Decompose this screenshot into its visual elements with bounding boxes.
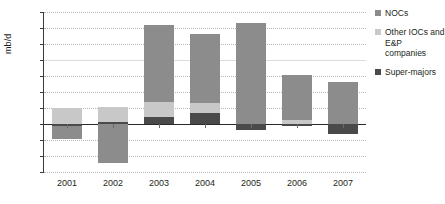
bar-segment-other-iocs[interactable]	[190, 103, 220, 113]
y-axis-tick	[40, 140, 44, 141]
legend-label: NOCs	[385, 8, 408, 18]
y-axis-title: mb/d	[2, 0, 12, 8]
x-axis-tick	[159, 124, 160, 128]
x-axis-tick	[297, 124, 298, 128]
x-axis-tick-label: 2007	[320, 178, 366, 188]
bar-segment-nocs[interactable]	[190, 34, 220, 103]
bar-segment-nocs[interactable]	[282, 75, 312, 120]
bar-segment-other-iocs[interactable]	[98, 107, 128, 121]
x-axis-tick-label: 2003	[136, 178, 182, 188]
x-axis-tick	[343, 124, 344, 128]
legend-swatch-icon	[375, 29, 381, 35]
chart-legend: NOCsOther IOCs and E&P companiesSuper-ma…	[375, 8, 445, 87]
x-axis-tick-label: 2002	[90, 178, 136, 188]
legend-swatch-icon	[375, 10, 381, 16]
x-axis-tick-label: 2004	[182, 178, 228, 188]
x-axis-tick	[67, 124, 68, 128]
bar-segment-other-iocs[interactable]	[144, 102, 174, 117]
bar-segment-super-majors[interactable]	[144, 117, 174, 124]
legend-item[interactable]: Super-majors	[375, 67, 445, 77]
bar-group[interactable]	[282, 12, 312, 172]
bar-segment-super-majors[interactable]	[190, 113, 220, 124]
y-axis-tick	[40, 76, 44, 77]
bar-group[interactable]	[52, 12, 82, 172]
legend-label: Other IOCs and E&P companies	[385, 27, 445, 58]
y-axis-tick	[40, 60, 44, 61]
legend-item[interactable]: NOCs	[375, 8, 445, 18]
y-axis-tick	[40, 12, 44, 13]
x-axis-tick-label: 2001	[44, 178, 90, 188]
bar-segment-nocs[interactable]	[236, 23, 266, 124]
y-axis-title-label: mb/d	[3, 34, 13, 54]
bar-group[interactable]	[236, 12, 266, 172]
y-axis-tick	[40, 92, 44, 93]
bar-segment-nocs[interactable]	[144, 25, 174, 101]
bar-segment-nocs[interactable]	[98, 124, 128, 163]
y-axis-tick	[40, 172, 44, 173]
x-axis-tick-label: 2005	[228, 178, 274, 188]
y-axis-tick	[40, 44, 44, 45]
bar-segment-other-iocs[interactable]	[52, 108, 82, 124]
stacked-bar-chart: mb/d NOCsOther IOCs and E&P companiesSup…	[0, 0, 445, 204]
y-axis-tick	[40, 108, 44, 109]
y-axis-tick	[40, 124, 44, 125]
x-axis-tick	[251, 124, 252, 128]
x-axis-tick	[113, 124, 114, 128]
bar-group[interactable]	[144, 12, 174, 172]
legend-item[interactable]: Other IOCs and E&P companies	[375, 27, 445, 58]
gridline	[44, 172, 366, 173]
bar-group[interactable]	[328, 12, 358, 172]
x-axis-tick-label: 2006	[274, 178, 320, 188]
y-axis-tick	[40, 28, 44, 29]
legend-swatch-icon	[375, 69, 381, 75]
bar-group[interactable]	[190, 12, 220, 172]
bar-segment-nocs[interactable]	[328, 82, 358, 124]
x-axis-tick	[205, 124, 206, 128]
legend-label: Super-majors	[385, 67, 436, 77]
bar-group[interactable]	[98, 12, 128, 172]
y-axis-tick	[40, 156, 44, 157]
plot-area	[44, 12, 366, 172]
